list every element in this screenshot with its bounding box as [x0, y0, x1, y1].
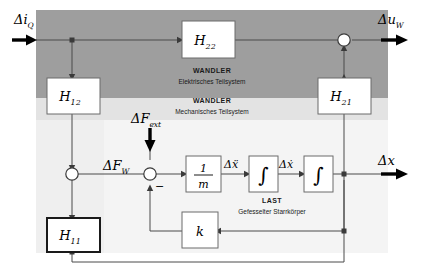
region-mechanical-subtitle: Mechanisches Teilsystem [175, 108, 249, 116]
block-integrator-1[interactable]: ∫ [249, 156, 278, 192]
summing-junction-force [144, 168, 156, 180]
label-velocity: Δẋ [278, 158, 294, 171]
block-h21[interactable]: H21 [318, 78, 371, 114]
block-h11[interactable]: H11 [47, 218, 100, 252]
label-input-current: ΔiQ [13, 12, 34, 30]
region-load-title: LAST [262, 197, 282, 204]
label-input-current-symbol: Δi [13, 12, 28, 27]
sum-sign-negative: − [155, 180, 164, 193]
block-h22-label: H [193, 33, 206, 48]
block-integrator-2[interactable]: ∫ [304, 156, 333, 192]
block-h12[interactable]: H12 [47, 78, 100, 114]
svg-text:ΔiQ: ΔiQ [13, 12, 34, 30]
region-electrical-title: WANDLER [193, 67, 231, 74]
block-integrator-1-label: ∫ [258, 163, 268, 187]
block-h22[interactable]: H22 [182, 21, 235, 58]
summing-junction-left [66, 168, 78, 180]
label-force-winding-sub: W [121, 167, 130, 176]
block-h11-sub: 11 [71, 237, 81, 246]
region-mechanical-title: WANDLER [193, 97, 231, 104]
block-stiffness-label: k [196, 224, 204, 239]
label-displacement: Δx [377, 153, 395, 168]
block-stiffness[interactable]: k [182, 212, 218, 248]
label-force-external-symbol: ΔF [130, 111, 150, 126]
label-force-winding-symbol: ΔF [102, 158, 122, 173]
block-h22-sub: 22 [205, 42, 216, 51]
block-mass-numerator: 1 [200, 162, 207, 175]
block-integrator-2-label: ∫ [313, 163, 323, 187]
block-mass-inverse[interactable]: 1 m [186, 156, 221, 192]
block-mass-denominator: m [198, 178, 208, 191]
label-output-voltage-symbol: Δu [377, 12, 396, 27]
arrow-input-current [12, 35, 37, 46]
block-h12-label: H [58, 89, 71, 104]
label-force-external-sub: ext [149, 120, 162, 129]
label-input-current-sub: Q [28, 21, 34, 30]
region-load-subtitle: Gefesselter Starrkörper [238, 208, 306, 216]
block-h12-sub: 12 [71, 98, 81, 107]
block-h21-label: H [329, 89, 342, 104]
label-acceleration: Δẍ [223, 158, 239, 171]
region-electrical-subtitle: Elektrisches Teilsystem [178, 78, 245, 86]
summing-junction-output [338, 34, 350, 46]
block-h21-sub: 21 [341, 98, 352, 107]
block-h11-label: H [58, 228, 71, 243]
block-diagram-canvas: WANDLER Elektrisches Teilsystem WANDLER … [0, 0, 424, 272]
label-output-voltage-sub: W [396, 21, 405, 30]
